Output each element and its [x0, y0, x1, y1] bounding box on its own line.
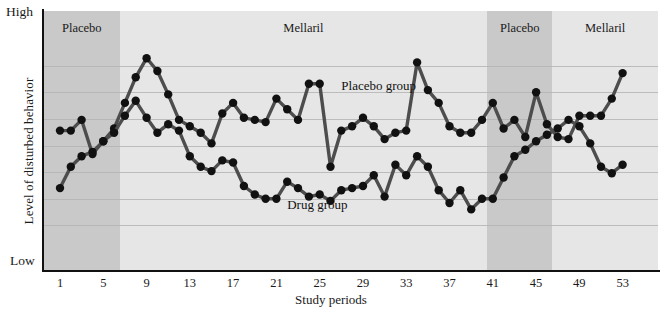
- x-axis-tick-label: 17: [227, 276, 240, 291]
- data-point: [348, 184, 356, 192]
- annotation-drug-group: Drug group: [287, 197, 347, 213]
- data-point: [272, 94, 280, 102]
- data-point: [532, 137, 540, 145]
- data-point: [229, 99, 237, 107]
- data-point: [142, 114, 150, 122]
- data-point: [337, 186, 345, 194]
- data-point: [294, 184, 302, 192]
- data-point: [391, 129, 399, 137]
- data-point: [564, 135, 572, 143]
- y-axis-title: Level of disturbed behavior: [21, 36, 37, 266]
- data-point: [489, 99, 497, 107]
- data-point: [445, 122, 453, 130]
- data-point: [272, 195, 280, 203]
- data-point: [467, 129, 475, 137]
- data-point: [510, 152, 518, 160]
- data-point: [564, 116, 572, 124]
- data-point: [391, 161, 399, 169]
- data-point: [597, 163, 605, 171]
- data-point: [294, 116, 302, 124]
- figure: High Low Level of disturbed behavior Pla…: [0, 0, 662, 310]
- data-point: [99, 137, 107, 145]
- data-point: [402, 126, 410, 134]
- data-point: [218, 109, 226, 117]
- data-point: [164, 90, 172, 98]
- data-point: [207, 139, 215, 147]
- data-point: [186, 122, 194, 130]
- data-point: [56, 126, 64, 134]
- data-point: [608, 94, 616, 102]
- data-point: [132, 97, 140, 105]
- x-axis-tick-label: 13: [184, 276, 197, 291]
- data-point: [445, 199, 453, 207]
- data-point: [67, 126, 75, 134]
- data-point: [261, 195, 269, 203]
- data-point: [197, 129, 205, 137]
- data-point: [175, 126, 183, 134]
- data-point: [554, 124, 562, 132]
- annotation-placebo-group: Placebo group: [341, 78, 416, 94]
- data-point: [554, 133, 562, 141]
- data-point: [521, 133, 529, 141]
- data-point: [110, 129, 118, 137]
- x-axis-tick-label: 45: [530, 276, 543, 291]
- x-axis-tick-label: 53: [616, 276, 629, 291]
- data-point: [240, 182, 248, 190]
- data-point: [413, 152, 421, 160]
- data-point: [586, 139, 594, 147]
- data-point: [229, 158, 237, 166]
- data-point: [370, 122, 378, 130]
- data-point: [597, 112, 605, 120]
- data-point: [337, 126, 345, 134]
- x-axis-tick-label: 37: [443, 276, 456, 291]
- data-point: [402, 171, 410, 179]
- x-axis-tick-label: 21: [270, 276, 283, 291]
- data-point: [618, 69, 626, 77]
- data-point: [489, 195, 497, 203]
- data-point: [510, 116, 518, 124]
- data-point: [164, 120, 172, 128]
- data-point: [142, 54, 150, 62]
- data-point: [240, 114, 248, 122]
- x-axis-tick-label: 49: [573, 276, 586, 291]
- data-point: [283, 178, 291, 186]
- data-point: [261, 118, 269, 126]
- data-point: [380, 135, 388, 143]
- data-point: [251, 190, 259, 198]
- data-point: [456, 129, 464, 137]
- plot-area: PlaceboMellarilPlaceboMellaril Placebo g…: [44, 11, 658, 270]
- data-point: [77, 116, 85, 124]
- data-point: [153, 67, 161, 75]
- data-point: [316, 80, 324, 88]
- series-lines: [44, 11, 658, 270]
- x-axis-title: Study periods: [0, 292, 662, 308]
- data-point: [251, 116, 259, 124]
- data-point: [359, 182, 367, 190]
- data-point: [575, 112, 583, 120]
- data-point: [435, 99, 443, 107]
- data-point: [67, 163, 75, 171]
- data-point: [435, 186, 443, 194]
- data-point: [586, 112, 594, 120]
- x-axis-line: [42, 270, 660, 272]
- data-point: [283, 105, 291, 113]
- data-point: [413, 58, 421, 66]
- data-point: [88, 148, 96, 156]
- data-point: [326, 163, 334, 171]
- data-point: [618, 161, 626, 169]
- x-axis-tick-label: 5: [100, 276, 106, 291]
- data-point: [370, 171, 378, 179]
- data-point: [499, 173, 507, 181]
- data-point: [218, 156, 226, 164]
- x-axis-tick-label: 41: [487, 276, 500, 291]
- data-point: [56, 184, 64, 192]
- data-point: [207, 167, 215, 175]
- data-point: [380, 192, 388, 200]
- x-axis-tick-label: 33: [400, 276, 413, 291]
- data-point: [121, 112, 129, 120]
- data-point: [608, 169, 616, 177]
- data-point: [186, 152, 194, 160]
- data-point: [521, 146, 529, 154]
- data-point: [499, 124, 507, 132]
- data-point: [305, 80, 313, 88]
